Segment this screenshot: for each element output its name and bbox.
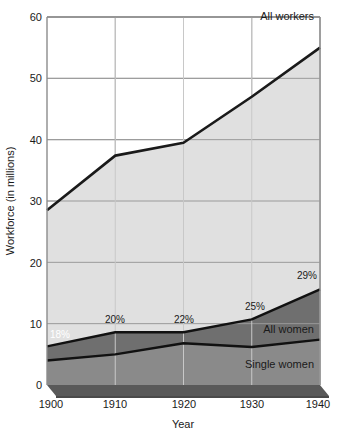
y-tick-label-20: 20 xyxy=(30,257,42,269)
annotation-pct-1900: 18% xyxy=(50,329,70,340)
base-strip-3d xyxy=(47,385,329,396)
series-label-all-workers: All workers xyxy=(260,10,314,22)
series-label-all-women: All women xyxy=(263,323,314,335)
y-tick-label-30: 30 xyxy=(30,195,42,207)
y-tick-label-50: 50 xyxy=(30,72,42,84)
y-tick-label-60: 60 xyxy=(30,11,42,23)
y-tick-label-40: 40 xyxy=(30,134,42,146)
workforce-area-chart: 60 50 40 30 20 10 0 1900 1910 1920 1930 … xyxy=(0,0,341,434)
annotation-pct-1940: 29% xyxy=(297,270,317,281)
y-axis-title: Workforce (in millions) xyxy=(4,147,16,256)
annotation-pct-1930: 25% xyxy=(245,301,265,312)
y-tick-label-10: 10 xyxy=(30,318,42,330)
x-tick-label-1930: 1930 xyxy=(240,398,264,410)
x-tick-label-1940: 1940 xyxy=(306,398,330,410)
chart-canvas: 60 50 40 30 20 10 0 1900 1910 1920 1930 … xyxy=(0,0,341,434)
x-tick-label-1900: 1900 xyxy=(39,398,63,410)
annotation-pct-1920: 22% xyxy=(174,314,194,325)
x-axis-title: Year xyxy=(172,418,195,430)
y-tick-label-0: 0 xyxy=(36,379,42,391)
series-label-single-women: Single women xyxy=(245,358,314,370)
annotation-pct-1910: 20% xyxy=(105,314,125,325)
x-tick-label-1920: 1920 xyxy=(172,398,196,410)
x-tick-label-1910: 1910 xyxy=(103,398,127,410)
